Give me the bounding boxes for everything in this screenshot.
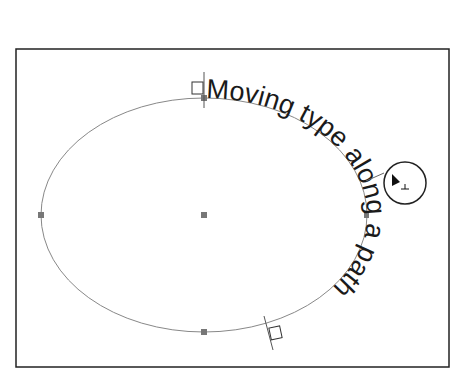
type-on-path-cursor-icon xyxy=(384,162,426,204)
artboard-canvas[interactable]: Moving type along a path xyxy=(0,0,469,384)
anchor-point-bottom[interactable] xyxy=(201,329,207,335)
anchor-point-left[interactable] xyxy=(38,212,44,218)
center-point[interactable] xyxy=(201,212,207,218)
